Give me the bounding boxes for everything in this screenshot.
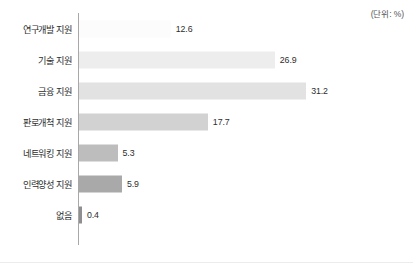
bar-group: 31.2 [79,82,328,99]
bar-value-label: 5.9 [127,179,139,189]
bar-value-label: 5.3 [123,148,135,158]
bottom-divider [0,262,413,263]
bar [79,206,82,223]
category-label: 기술 지원 [0,53,72,67]
bar [79,113,208,130]
bar-row: 금융 지원 31.2 [0,75,413,106]
bar-row: 네트워킹 지원 5.3 [0,137,413,168]
bar-group: 26.9 [79,51,297,68]
plot-area: 연구개발 지원 12.6 기술 지원 26.9 금융 지원 31.2 판로개척 … [0,13,413,245]
bar [79,82,306,99]
bar-row: 판로개척 지원 17.7 [0,106,413,137]
category-label: 네트워킹 지원 [0,146,72,160]
bar-group: 5.3 [79,144,135,161]
bar-group: 12.6 [79,20,192,37]
bar-group: 5.9 [79,175,139,192]
category-label: 연구개발 지원 [0,22,72,36]
bar [79,20,171,37]
bar-value-label: 17.7 [213,117,230,127]
category-label: 인력양성 지원 [0,177,72,191]
bar [79,51,275,68]
bar-group: 17.7 [79,113,230,130]
bar [79,175,122,192]
bar-value-label: 26.9 [280,55,297,65]
bar-row: 인력양성 지원 5.9 [0,168,413,199]
bar-value-label: 31.2 [311,86,328,96]
bar [79,144,118,161]
bar-row: 기술 지원 26.9 [0,44,413,75]
category-label: 없음 [0,208,72,222]
category-label: 금융 지원 [0,84,72,98]
bar-row: 없음 0.4 [0,199,413,230]
category-label: 판로개척 지원 [0,115,72,129]
bar-chart: (단위: %) 연구개발 지원 12.6 기술 지원 26.9 금융 지원 31… [0,0,413,268]
bar-row: 연구개발 지원 12.6 [0,13,413,44]
bar-value-label: 0.4 [87,210,99,220]
bar-value-label: 12.6 [176,24,193,34]
bar-group: 0.4 [79,206,99,223]
